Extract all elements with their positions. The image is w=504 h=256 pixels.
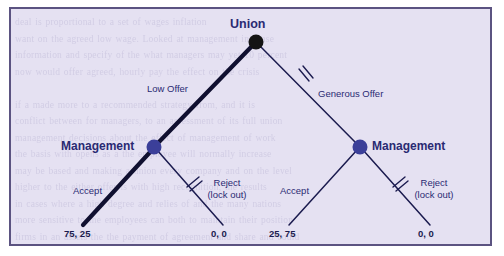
label-branch-generous-offer: Generous Offer: [318, 88, 383, 100]
label-node-union: Union: [230, 17, 265, 31]
label-branch-left-reject-line2: (lock out): [207, 189, 246, 200]
payoff-mid-left: 0, 0: [211, 228, 227, 239]
node-management-left[interactable]: [147, 140, 162, 155]
diagram-panel: deal is proportional to a set of wages i…: [9, 7, 492, 246]
label-node-management-right: Management: [372, 139, 445, 153]
label-branch-right-reject: Reject (lock out): [407, 177, 461, 200]
label-branch-left-reject-line1: Reject: [214, 177, 241, 188]
label-branch-right-accept: Accept: [280, 185, 309, 197]
figure-container: deal is proportional to a set of wages i…: [0, 0, 504, 256]
payoff-mid-right: 25, 75: [269, 228, 295, 239]
prune-mark-generous-offer: [299, 66, 313, 81]
node-management-right[interactable]: [353, 140, 368, 155]
label-branch-low-offer: Low Offer: [147, 83, 188, 95]
label-branch-right-reject-line1: Reject: [421, 177, 448, 188]
label-node-management-left: Management: [61, 139, 134, 153]
payoff-left: 75, 25: [64, 228, 90, 239]
prune-mark-right-reject: [393, 177, 408, 191]
label-branch-left-accept: Accept: [73, 185, 102, 197]
game-tree-svg: [11, 9, 492, 246]
node-union[interactable]: [249, 35, 264, 50]
payoff-right: 0, 0: [418, 228, 434, 239]
label-branch-left-reject: Reject (lock out): [200, 177, 254, 200]
label-branch-right-reject-line2: (lock out): [414, 189, 453, 200]
